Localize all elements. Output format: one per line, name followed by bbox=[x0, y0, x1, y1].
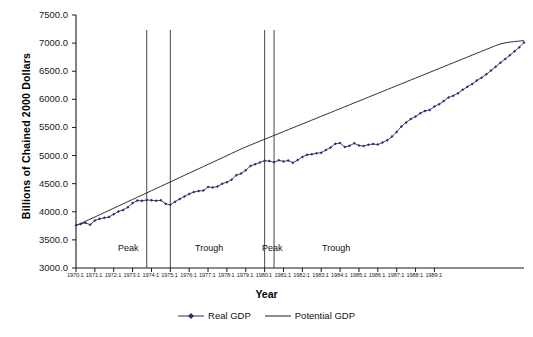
series-marker-real-gdp bbox=[277, 159, 280, 162]
series-marker-real-gdp bbox=[310, 153, 313, 156]
x-axis-tick-label: 1989:1 bbox=[425, 272, 442, 278]
legend-label-potential-gdp: Potential GDP bbox=[295, 310, 355, 321]
plot-area bbox=[0, 0, 533, 337]
x-axis-tick-label: 1972:1 bbox=[105, 272, 122, 278]
series-marker-real-gdp bbox=[263, 159, 266, 162]
y-axis-tick-label: 3000.0 bbox=[24, 262, 68, 273]
series-marker-real-gdp bbox=[141, 199, 144, 202]
x-axis-tick-label: 1980:1 bbox=[256, 272, 273, 278]
series-marker-real-gdp bbox=[258, 161, 261, 164]
legend-label-real-gdp: Real GDP bbox=[208, 310, 251, 321]
x-axis-tick-label: 1970:1 bbox=[67, 272, 84, 278]
series-marker-real-gdp bbox=[357, 144, 360, 147]
series-line-potential-gdp bbox=[76, 41, 524, 226]
x-axis-tick-label: 1973:1 bbox=[124, 272, 141, 278]
annotation-trough-1: Trough bbox=[195, 243, 223, 253]
x-axis-tick-label: 1986:1 bbox=[369, 272, 386, 278]
series-marker-real-gdp bbox=[150, 199, 153, 202]
x-axis-tick-label: 1988:1 bbox=[407, 272, 424, 278]
y-axis-tick-label: 7500.0 bbox=[24, 9, 68, 20]
series-marker-real-gdp bbox=[376, 143, 379, 146]
y-axis-title: Billions of Chained 2000 Dollars bbox=[20, 11, 32, 261]
x-axis-tick-label: 1974:1 bbox=[142, 272, 159, 278]
x-axis-tick-label: 1981:1 bbox=[274, 272, 291, 278]
x-axis-tick-label: 1978:1 bbox=[218, 272, 235, 278]
series-marker-real-gdp bbox=[254, 163, 257, 166]
series-marker-real-gdp bbox=[225, 181, 228, 184]
gdp-chart-figure: Billions of Chained 2000 Dollars Year 30… bbox=[0, 0, 533, 337]
series-marker-real-gdp bbox=[98, 217, 101, 220]
annotation-peak-0: Peak bbox=[118, 243, 139, 253]
y-axis-tick-label: 4000.0 bbox=[24, 206, 68, 217]
x-axis-title: Year bbox=[0, 288, 533, 300]
x-axis-tick-label: 1987:1 bbox=[388, 272, 405, 278]
series-marker-real-gdp bbox=[381, 141, 384, 144]
series-marker-real-gdp bbox=[197, 189, 200, 192]
y-axis-tick-label: 6500.0 bbox=[24, 65, 68, 76]
y-axis-tick-label: 7000.0 bbox=[24, 37, 68, 48]
x-axis-tick-label: 1982:1 bbox=[293, 272, 310, 278]
x-axis-tick-label: 1975:1 bbox=[161, 272, 178, 278]
legend-swatch-real-gdp bbox=[178, 311, 204, 321]
x-axis-tick-label: 1977:1 bbox=[199, 272, 216, 278]
series-marker-real-gdp bbox=[155, 199, 158, 202]
x-axis-tick-label: 1985:1 bbox=[350, 272, 367, 278]
series-marker-real-gdp bbox=[287, 159, 290, 162]
x-axis-tick-label: 1971:1 bbox=[86, 272, 103, 278]
series-marker-real-gdp bbox=[367, 143, 370, 146]
legend-item-potential-gdp[interactable]: Potential GDP bbox=[265, 310, 355, 321]
x-axis-tick-label: 1983:1 bbox=[312, 272, 329, 278]
series-marker-real-gdp bbox=[75, 224, 78, 227]
series-line-real-gdp bbox=[76, 43, 524, 226]
series-marker-real-gdp bbox=[372, 143, 375, 146]
x-axis-tick-label: 1976:1 bbox=[180, 272, 197, 278]
x-axis-tick-label: 1984:1 bbox=[331, 272, 348, 278]
series-marker-real-gdp bbox=[306, 153, 309, 156]
series-marker-real-gdp bbox=[211, 186, 214, 189]
annotation-peak-2: Peak bbox=[262, 243, 283, 253]
annotation-trough-3: Trough bbox=[322, 243, 350, 253]
series-marker-real-gdp bbox=[315, 152, 318, 155]
chart-legend: Real GDP Potential GDP bbox=[0, 310, 533, 321]
series-marker-real-gdp bbox=[192, 190, 195, 193]
series-marker-real-gdp bbox=[103, 216, 106, 219]
y-axis-tick-label: 5000.0 bbox=[24, 150, 68, 161]
y-axis-tick-label: 4500.0 bbox=[24, 178, 68, 189]
legend-swatch-potential-gdp bbox=[265, 311, 291, 321]
series-marker-real-gdp bbox=[362, 145, 365, 148]
y-axis-tick-label: 5500.0 bbox=[24, 121, 68, 132]
series-marker-real-gdp bbox=[268, 160, 271, 163]
y-axis-tick-label: 6000.0 bbox=[24, 93, 68, 104]
series-marker-real-gdp bbox=[145, 198, 148, 201]
y-axis-tick-label: 3500.0 bbox=[24, 234, 68, 245]
legend-item-real-gdp[interactable]: Real GDP bbox=[178, 310, 251, 321]
series-marker-real-gdp bbox=[273, 161, 276, 164]
x-axis-tick-label: 1979:1 bbox=[237, 272, 254, 278]
series-marker-real-gdp bbox=[282, 160, 285, 163]
series-marker-real-gdp bbox=[423, 109, 426, 112]
